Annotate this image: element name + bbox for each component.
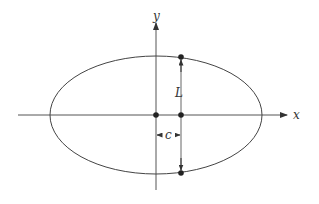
y-axis-label: y	[152, 9, 160, 23]
ellipse-diagram: y x L c	[0, 0, 319, 204]
chord-bottom-point	[178, 170, 184, 176]
chord-top-point	[178, 54, 184, 60]
focal-distance-label: c	[165, 128, 172, 142]
focus-point	[178, 112, 184, 118]
center-point	[153, 112, 159, 118]
chord-length-label: L	[174, 86, 183, 100]
x-axis-label: x	[293, 108, 300, 122]
